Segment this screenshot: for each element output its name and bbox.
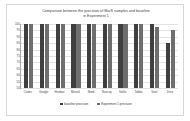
bar	[45, 24, 49, 88]
x-tick-label: Sahlo	[115, 90, 131, 94]
y-tick-label: 55	[17, 80, 20, 84]
y-tick-label: 70	[17, 60, 20, 64]
bar-group	[52, 24, 68, 88]
chart-frame: Comparison between the precision of MarS…	[6, 4, 184, 116]
legend-label: Experiment 1 precision	[101, 102, 132, 106]
bar	[29, 24, 33, 88]
x-tick-label: Nascay	[99, 90, 115, 94]
bar-group	[162, 24, 178, 88]
bar	[139, 24, 143, 88]
y-tick-label: 85	[17, 41, 20, 45]
x-tick-label: Google	[36, 90, 52, 94]
x-axis-labels: CodecGoogleHexboxMixerdNimbNascaySahloTa…	[20, 90, 178, 94]
x-tick-label: Tabba	[131, 90, 147, 94]
x-tick-label: Vivel	[146, 90, 162, 94]
bar	[61, 24, 65, 88]
bar	[155, 27, 159, 88]
bar	[92, 24, 96, 88]
y-tick-label: 95	[17, 28, 20, 32]
bar	[134, 24, 138, 88]
bar	[166, 43, 170, 88]
x-tick-label: Nimb	[83, 90, 99, 94]
y-tick-label: 100	[15, 22, 20, 26]
y-tick-label: 60	[17, 73, 20, 77]
x-tick-label: Hexbox	[52, 90, 68, 94]
bar	[123, 24, 127, 88]
bar-group	[147, 24, 163, 88]
y-tick-label: 80	[17, 48, 20, 52]
bar	[171, 30, 175, 88]
bar	[40, 24, 44, 88]
bar	[103, 24, 107, 88]
bars-layer	[21, 24, 178, 88]
bar-group	[131, 24, 147, 88]
plot-area: 10095908580757065605550	[20, 24, 178, 89]
y-tick-label: 65	[17, 67, 20, 71]
bar	[76, 24, 80, 88]
bar	[24, 24, 28, 88]
y-tick-label: 90	[17, 35, 20, 39]
bar-group	[100, 24, 116, 88]
x-tick-label: Drex	[162, 90, 178, 94]
x-tick-label: Codec	[20, 90, 36, 94]
bar-group	[84, 24, 100, 88]
legend-swatch-icon	[97, 103, 100, 106]
gridline	[21, 88, 178, 89]
bar	[118, 24, 122, 88]
chart-legend: baseline precisionExperiment 1 precision	[7, 102, 185, 106]
bar	[87, 24, 91, 88]
bar-group	[21, 24, 37, 88]
bar-group	[68, 24, 84, 88]
legend-item[interactable]: Experiment 1 precision	[97, 102, 132, 106]
bar	[71, 24, 75, 88]
bar	[56, 24, 60, 88]
bar-group	[37, 24, 53, 88]
legend-item[interactable]: baseline precision	[60, 102, 88, 106]
legend-swatch-icon	[60, 103, 63, 106]
bar	[150, 24, 154, 88]
x-tick-label: Mixerd	[67, 90, 83, 94]
bar	[108, 24, 112, 88]
legend-label: baseline precision	[64, 102, 88, 106]
plot-wrapper: 10095908580757065605550 CodecGoogleHexbo…	[7, 5, 185, 117]
y-tick-label: 75	[17, 54, 20, 58]
bar-group	[115, 24, 131, 88]
